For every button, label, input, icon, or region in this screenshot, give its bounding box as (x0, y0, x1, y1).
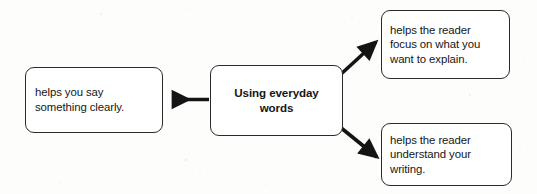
top-right-branch-line-1: helps the reader (390, 23, 509, 38)
diagram-canvas: helps you say something clearly. Using e… (0, 0, 537, 194)
bottom-right-branch-node: helps the reader understand your writing… (381, 123, 512, 186)
top-right-branch-line-3: want to explain. (390, 52, 509, 67)
center-node: Using everyday words (210, 65, 343, 136)
center-node-line-1: Using everyday (234, 86, 318, 101)
left-branch-node: helps you say something clearly. (25, 67, 163, 133)
left-branch-line-2: something clearly. (35, 100, 162, 115)
center-node-line-2: words (260, 101, 294, 116)
left-branch-line-1: helps you say (35, 85, 162, 100)
arrow-to-top-right (340, 42, 376, 75)
bottom-right-branch-line-2: understand your (390, 147, 511, 162)
top-right-branch-node: helps the reader focus on what you want … (381, 10, 510, 79)
bottom-right-branch-line-1: helps the reader (390, 133, 511, 148)
arrow-to-bottom-right (340, 127, 377, 157)
top-right-branch-line-2: focus on what you (390, 37, 509, 52)
bottom-right-branch-line-3: writing. (390, 162, 511, 177)
